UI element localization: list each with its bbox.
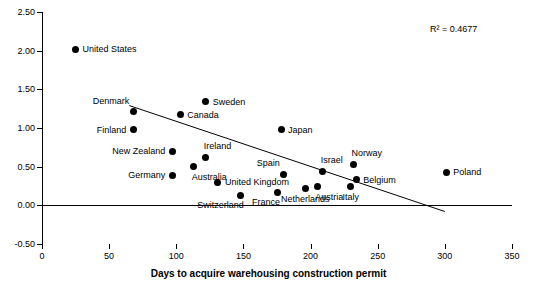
x-axis-title: Days to acquire warehousing construction… [0, 268, 537, 279]
x-tick-50 [109, 244, 110, 249]
data-point [72, 46, 79, 53]
y-tick-label-1.00: 1.00 [17, 123, 35, 133]
data-point-label: Switzerland [197, 200, 244, 210]
y-tick-label-2.50: 2.50 [17, 7, 35, 17]
data-point [237, 192, 244, 199]
data-point-label: Spain [257, 158, 280, 168]
data-point [169, 148, 176, 155]
x-tick-150 [243, 244, 244, 249]
data-point-label: Italy [343, 192, 360, 202]
x-tick-label-300: 300 [437, 251, 452, 261]
data-point-label: Belgium [363, 175, 396, 185]
x-tick-label-200: 200 [303, 251, 318, 261]
data-point-label: Israel [321, 155, 343, 165]
data-point [314, 183, 321, 190]
x-tick-350 [512, 244, 513, 249]
data-point [347, 183, 354, 190]
y-tick-label--0.50: -0.50 [14, 239, 35, 249]
data-point-label: France [252, 197, 280, 207]
x-tick-300 [445, 244, 446, 249]
data-point-label: Ireland [204, 141, 232, 151]
x-tick-label-150: 150 [236, 251, 251, 261]
x-tick-label-100: 100 [169, 251, 184, 261]
data-point [274, 189, 281, 196]
x-tick-200 [311, 244, 312, 249]
data-point-label: Sweden [213, 97, 246, 107]
x-tick-label-250: 250 [370, 251, 385, 261]
data-point-label: Denmark [93, 96, 130, 106]
x-tick-100 [176, 244, 177, 249]
x-tick-label-0: 0 [39, 251, 44, 261]
r-squared-annotation: R² = 0.4677 [430, 24, 477, 34]
y-tick-label-2.00: 2.00 [17, 46, 35, 56]
data-point-label: Germany [128, 170, 165, 180]
data-point [169, 172, 176, 179]
data-point-label: New Zealand [112, 146, 165, 156]
x-tick-0 [42, 244, 43, 249]
y-tick-label-1.50: 1.50 [17, 84, 35, 94]
x-tick-label-50: 50 [104, 251, 114, 261]
data-point [353, 176, 360, 183]
plot-area: 2.50 2.00 1.50 1.00 0.50 0.00 -0.50 0 50… [42, 12, 512, 244]
data-point-label: Australia [192, 172, 227, 182]
y-tick-label-0.50: 0.50 [17, 162, 35, 172]
data-point [278, 126, 285, 133]
data-point [302, 185, 309, 192]
data-point-label: Norway [352, 148, 383, 158]
data-point [319, 168, 326, 175]
x-tick-label-350: 350 [504, 251, 519, 261]
data-point-label: Poland [453, 167, 481, 177]
data-point-label: Canada [187, 110, 219, 120]
data-point [350, 161, 357, 168]
data-point-label: Japan [288, 125, 313, 135]
data-point-label: United States [83, 44, 137, 54]
data-point [130, 126, 137, 133]
x-tick-250 [378, 244, 379, 249]
data-point-label: Finland [97, 125, 127, 135]
scatter-chart: 2.50 2.00 1.50 1.00 0.50 0.00 -0.50 0 50… [0, 0, 537, 293]
data-point-label: United Kingdom [225, 177, 289, 187]
y-tick-label-0.00: 0.00 [17, 200, 35, 210]
data-point [443, 169, 450, 176]
data-point-label: Netherlands [281, 194, 330, 204]
